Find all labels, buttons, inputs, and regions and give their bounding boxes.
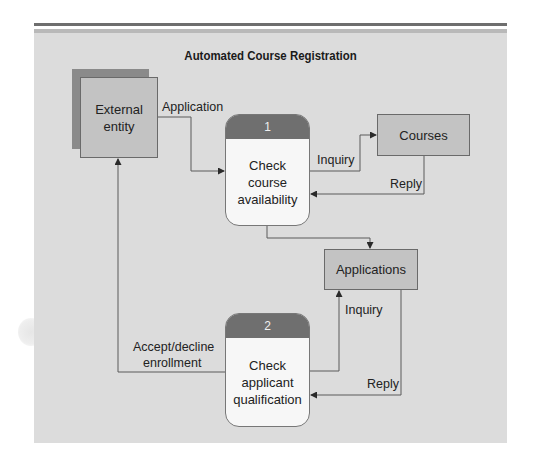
data-store-courses: Courses — [377, 114, 470, 156]
data-store-applications: Applications — [324, 249, 418, 290]
flow-label-accept-decline-line2: enrollment — [143, 355, 201, 371]
process-label-line3: availability — [238, 191, 298, 208]
process-label-line2: course — [238, 174, 298, 191]
process-label-line3: qualification — [233, 391, 302, 408]
process-check-course-availability: 1 Check course availability — [225, 114, 310, 226]
flow-label-reply-courses: Reply — [390, 176, 422, 192]
flow-label-inquiry-courses: Inquiry — [317, 152, 355, 168]
process-check-applicant-qualification: 2 Check applicant qualification — [225, 313, 310, 427]
flow-label-inquiry-applications: Inquiry — [345, 302, 383, 318]
process-label-line1: Check — [238, 157, 298, 174]
external-entity-label-line1: External — [95, 101, 143, 118]
external-entity-label-line2: entity — [95, 118, 143, 135]
process-label-line2: applicant — [233, 374, 302, 391]
external-entity: External entity — [80, 77, 158, 158]
process-number: 2 — [226, 314, 309, 338]
process-label-line1: Check — [233, 357, 302, 374]
flow-label-reply-applications: Reply — [367, 376, 399, 392]
flow-label-application: Application — [162, 99, 223, 115]
flow-label-accept-decline-line1: Accept/decline — [133, 339, 214, 355]
process-number: 1 — [226, 115, 309, 139]
